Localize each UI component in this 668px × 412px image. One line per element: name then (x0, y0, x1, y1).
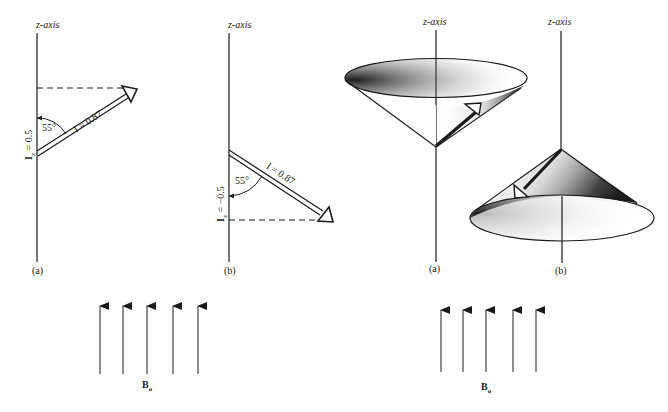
vector-diagram-b (229, 33, 333, 262)
z-axis-label: z-axis (548, 17, 571, 27)
panel-label-b: (b) (555, 266, 567, 276)
b0-field-label: Bo (481, 382, 491, 395)
b0-field-label: Bo (142, 380, 152, 393)
vector-diagram-a (37, 33, 137, 262)
z-axis-label: z-axis (36, 20, 59, 30)
z-axis-label: z-axis (228, 20, 251, 30)
panel-label-a: (a) (429, 264, 440, 274)
magnetic-field-arrows-right (441, 310, 536, 372)
angle-arrowhead (229, 194, 234, 199)
magnetic-field-arrows-left (100, 306, 198, 374)
projection-label: Iz = 0.5 (24, 130, 37, 160)
angle-label: 55° (235, 176, 249, 186)
panel-label-b: (b) (224, 266, 236, 276)
angle-arrowhead (37, 116, 42, 121)
spin-vector-arrow (229, 150, 333, 222)
panel-label-a: (a) (32, 266, 43, 276)
projection-label: Iz = −0.5 (216, 186, 229, 222)
angle-label: 55° (42, 123, 56, 133)
z-axis-label: z-axis (423, 17, 446, 27)
figure-canvas (0, 0, 668, 412)
